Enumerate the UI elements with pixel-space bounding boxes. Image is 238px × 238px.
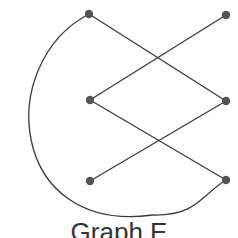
graph-diagram xyxy=(0,0,238,238)
edge-bottom-left-middle-right xyxy=(90,101,226,181)
edge-middle-left-bottom-right xyxy=(90,100,226,180)
graph-edges xyxy=(29,14,226,217)
node-bottom-right xyxy=(222,176,230,184)
node-top-left xyxy=(85,10,93,18)
node-middle-right xyxy=(222,97,230,105)
node-middle-left xyxy=(86,96,94,104)
graph-caption: Graph E xyxy=(0,219,238,238)
graph-nodes xyxy=(85,10,230,185)
edge-top-left-bottom-right xyxy=(29,14,226,217)
node-bottom-left xyxy=(86,177,94,185)
node-top-right xyxy=(222,11,230,19)
